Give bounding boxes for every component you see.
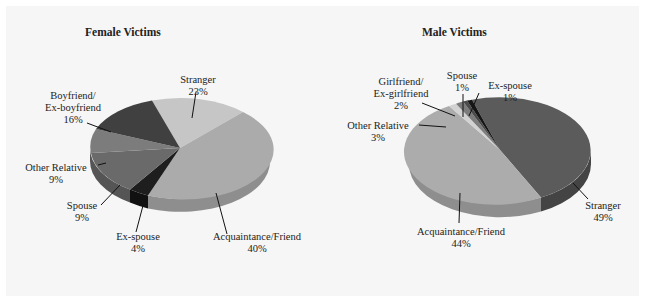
label-name: Ex-spouse <box>480 80 540 92</box>
label-other-relative-male: Other Relative 3% <box>336 120 420 144</box>
label-pct: 1% <box>480 92 540 104</box>
label-pct: 16% <box>38 114 108 126</box>
label-boyfriend-female: Boyfriend/ Ex-boyfriend 16% <box>38 90 108 126</box>
label-name: Other Relative <box>336 120 420 132</box>
label-pct: 1% <box>440 82 484 94</box>
pie-charts-svg <box>0 0 645 305</box>
label-acquaintance-male: Acquaintance/Friend 44% <box>406 226 516 250</box>
label-girlfriend-male: Girlfriend/ Ex-girlfriend 2% <box>366 76 436 112</box>
label-name: Spouse <box>440 70 484 82</box>
label-name: Ex-boyfriend <box>38 102 108 114</box>
label-pct: 23% <box>173 86 223 98</box>
label-pct: 9% <box>14 174 98 186</box>
label-name: Girlfriend/ <box>366 76 436 88</box>
label-pct: 3% <box>336 132 420 144</box>
label-other-relative-female: Other Relative 9% <box>14 162 98 186</box>
label-name: Other Relative <box>14 162 98 174</box>
label-pct: 44% <box>406 238 516 250</box>
male-chart-title: Male Victims <box>422 26 487 38</box>
label-pct: 4% <box>108 243 168 255</box>
label-exspouse-male: Ex-spouse 1% <box>480 80 540 104</box>
label-name: Boyfriend/ <box>38 90 108 102</box>
female-pie <box>87 92 274 234</box>
label-spouse-male: Spouse 1% <box>440 70 484 94</box>
label-pct: 2% <box>366 100 436 112</box>
label-spouse-female: Spouse 9% <box>60 200 104 224</box>
label-stranger-male: Stranger 49% <box>578 200 628 224</box>
male-pie <box>404 93 591 223</box>
label-exspouse-female: Ex-spouse 4% <box>108 231 168 255</box>
female-chart-title: Female Victims <box>85 26 161 38</box>
label-pct: 49% <box>578 212 628 224</box>
label-name: Acquaintance/Friend <box>406 226 516 238</box>
label-name: Ex-girlfriend <box>366 88 436 100</box>
label-acquaintance-female: Acquaintance/Friend 40% <box>202 231 312 255</box>
label-stranger-female: Stranger 23% <box>173 74 223 98</box>
label-name: Stranger <box>578 200 628 212</box>
label-name: Stranger <box>173 74 223 86</box>
label-pct: 40% <box>202 243 312 255</box>
label-name: Spouse <box>60 200 104 212</box>
label-name: Acquaintance/Friend <box>202 231 312 243</box>
label-name: Ex-spouse <box>108 231 168 243</box>
label-pct: 9% <box>60 212 104 224</box>
